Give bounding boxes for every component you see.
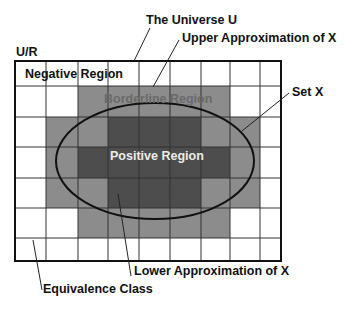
equivalence-class-cell [15,147,46,178]
equivalence-class-cell [170,178,201,208]
equivalence-class-cell [78,147,108,178]
equivalence-class-cell [201,208,230,238]
equivalence-class-cell [108,238,139,261]
universe-pointer [134,28,150,61]
ur-label: U/R [16,46,38,59]
negative-region-label: Negative Region [25,68,123,81]
equivalence-class-cell [78,208,108,238]
equivalence-class-cell [139,208,170,238]
universe-label: The Universe U [146,14,237,27]
equivalence-class-cell [15,117,46,147]
equivalence-class-cell [230,178,260,208]
equivalence-class-cell [260,61,281,86]
equivalence-class-cell [201,238,230,261]
equivalence-class-cell [78,238,108,261]
equivalence-class-cell [230,117,260,147]
equivalence-class-cell [15,208,46,238]
equivalence-class-cell [46,208,78,238]
equivalence-class-cell [201,147,230,178]
equivalence-class-cell [108,117,139,147]
equivalence-class-cell [46,86,78,117]
equivalence-class-cell [46,147,78,178]
equivalence-class-cell [108,208,139,238]
equivalence-class-cell [139,178,170,208]
equivalence-class-cell [170,61,201,86]
equivalence-class-cell [170,117,201,147]
lower-approximation-label: Lower Approximation of X [134,265,289,278]
equivalence-class-cell [260,147,281,178]
equivalence-class-cell [108,178,139,208]
equivalence-class-label: Equivalence Class [43,283,153,296]
equivalence-class-cell [260,208,281,238]
equivalence-class-cell [46,238,78,261]
equivalence-class-cell [139,238,170,261]
equivalence-class-cell [170,208,201,238]
equivalence-class-cell [201,178,230,208]
equivalence-class-cell [230,147,260,178]
upper-approximation-label: Upper Approximation of X [182,32,336,45]
equivalence-class-cell [260,238,281,261]
equivalence-class-cell [15,238,46,261]
set-x-label: Set X [292,86,323,99]
equivalence-class-cell [230,61,260,86]
borderline-region-label: Borderline Region [104,93,212,106]
equivalence-class-cell [230,238,260,261]
equivalence-class-cell [139,117,170,147]
equivalence-class-cell [260,117,281,147]
equivalence-class-cell [230,208,260,238]
equivalence-class-cell [170,238,201,261]
equivalence-class-cell [15,86,46,117]
equivalence-class-cell [260,178,281,208]
equivalence-class-cell [201,61,230,86]
equivalence-class-cell [15,178,46,208]
equivalence-class-cell [78,178,108,208]
equivalence-class-cell [230,86,260,117]
positive-region-label: Positive Region [110,150,204,163]
